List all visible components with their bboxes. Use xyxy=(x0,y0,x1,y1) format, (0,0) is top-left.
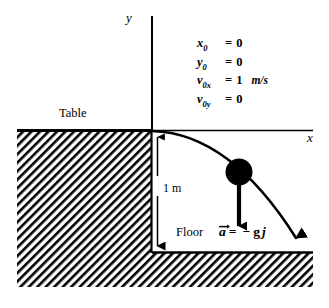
floor-block xyxy=(17,253,313,288)
projectile-motion-diagram: y x Table Floor 1 m x0 = 0 y0 = 0 v0x = … xyxy=(0,0,329,308)
gravity-symbol: g xyxy=(253,224,260,240)
ic-value: 0 xyxy=(236,55,242,70)
ic-value: 0 xyxy=(236,36,242,51)
ic-equals: = xyxy=(225,73,232,88)
diagram-canvas xyxy=(0,0,329,308)
ic-symbol: v0x xyxy=(197,73,223,90)
ic-value: 1 xyxy=(236,73,242,88)
height-dimension-label: 1 m xyxy=(163,182,181,194)
y-axis-label: y xyxy=(126,11,132,24)
accel-sign: − xyxy=(242,224,250,240)
table-label: Table xyxy=(59,107,87,120)
ic-unit: m/s xyxy=(251,74,268,86)
initial-condition-row: x0 = 0 xyxy=(197,36,268,53)
ic-equals: = xyxy=(225,55,232,70)
initial-condition-row: v0x = 1 m/s xyxy=(197,73,268,90)
x-axis-label: x xyxy=(307,131,313,144)
vector-arrow-icon xyxy=(219,224,230,229)
floor-label: Floor xyxy=(176,226,203,239)
acceleration-vector-symbol: a xyxy=(219,224,226,240)
initial-conditions-block: x0 = 0 y0 = 0 v0x = 1 m/s v0y = 0 xyxy=(197,36,268,108)
initial-condition-row: y0 = 0 xyxy=(197,55,268,72)
unit-vector-j: j xyxy=(262,224,266,240)
ic-value: 0 xyxy=(236,92,242,107)
ic-equals: = xyxy=(225,36,232,51)
ic-equals: = xyxy=(225,92,232,107)
ic-symbol: v0y xyxy=(197,92,223,109)
ic-symbol: x0 xyxy=(197,36,223,53)
initial-condition-row: v0y = 0 xyxy=(197,92,268,109)
acceleration-equation: a = − g j xyxy=(219,224,266,240)
ic-symbol: y0 xyxy=(197,55,223,72)
